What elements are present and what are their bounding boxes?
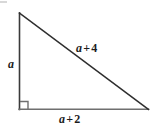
triangle-figure: a a+4 a+2 — [0, 0, 160, 133]
side-label-hypotenuse-operator: + — [82, 41, 91, 55]
hypotenuse-line — [20, 13, 149, 109]
side-label-hypotenuse: a+4 — [76, 42, 97, 54]
side-label-horizontal-leg: a+2 — [59, 113, 80, 125]
side-label-vertical-leg-variable: a — [8, 57, 14, 71]
right-angle-marker — [20, 102, 28, 110]
side-label-vertical-leg: a — [8, 58, 14, 70]
side-label-horizontal-leg-number: 2 — [74, 112, 80, 126]
side-label-horizontal-leg-operator: + — [65, 112, 74, 126]
side-label-hypotenuse-number: 4 — [91, 41, 97, 55]
triangle-outline — [19, 13, 149, 110]
